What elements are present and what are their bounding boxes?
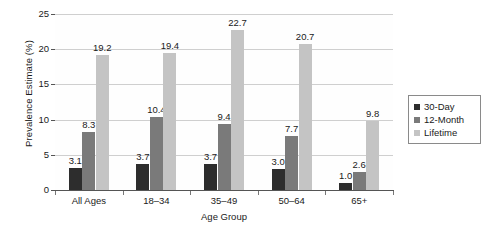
x-tick-mark (393, 191, 394, 195)
bar-chart: Prevalence Estimate (%) 0510152025 3.18.… (0, 0, 488, 238)
legend-item[interactable]: 12-Month (414, 113, 476, 126)
x-axis-title: Age Group (55, 211, 393, 222)
bar (163, 53, 176, 190)
y-tick-label: 20 (23, 44, 49, 54)
bar (272, 169, 285, 190)
bar (96, 55, 109, 190)
legend-label: 30-Day (424, 101, 455, 112)
legend-item[interactable]: Lifetime (414, 126, 476, 139)
gridline (55, 14, 393, 15)
x-tick-mark (325, 191, 326, 195)
plot-area: 3.18.319.23.710.419.43.79.422.73.07.720.… (55, 14, 393, 190)
chart-legend: 30-Day12-MonthLifetime (408, 95, 481, 144)
x-tick-mark (190, 191, 191, 195)
y-tick-label: 15 (23, 79, 49, 89)
legend-label: Lifetime (424, 127, 457, 138)
legend-item[interactable]: 30-Day (414, 100, 476, 113)
bar-value-label: 19.4 (155, 41, 185, 51)
x-axis-line (55, 190, 394, 191)
x-tick-mark (258, 191, 259, 195)
bar (231, 30, 244, 190)
bar (150, 117, 163, 190)
x-tick-label: 65+ (319, 195, 399, 206)
bar (339, 183, 352, 190)
y-tick-label: 25 (23, 9, 49, 19)
bar (136, 164, 149, 190)
bar-value-label: 22.7 (223, 18, 253, 28)
x-tick-mark (123, 191, 124, 195)
legend-swatch-icon (414, 130, 420, 136)
y-tick-label: 5 (23, 150, 49, 160)
bar (218, 124, 231, 190)
bar-value-label: 20.7 (290, 32, 320, 42)
bar-value-label: 9.8 (358, 109, 388, 119)
legend-label: 12-Month (424, 114, 464, 125)
bar (285, 136, 298, 190)
bar (299, 44, 312, 190)
legend-swatch-icon (414, 104, 420, 110)
bar (353, 172, 366, 190)
bar (82, 132, 95, 190)
y-tick-label: 10 (23, 115, 49, 125)
x-tick-mark (55, 191, 56, 195)
bar (204, 164, 217, 190)
bar (69, 168, 82, 190)
bar-value-label: 19.2 (87, 43, 117, 53)
bar (366, 121, 379, 190)
legend-swatch-icon (414, 117, 420, 123)
y-tick-label: 0 (23, 185, 49, 195)
